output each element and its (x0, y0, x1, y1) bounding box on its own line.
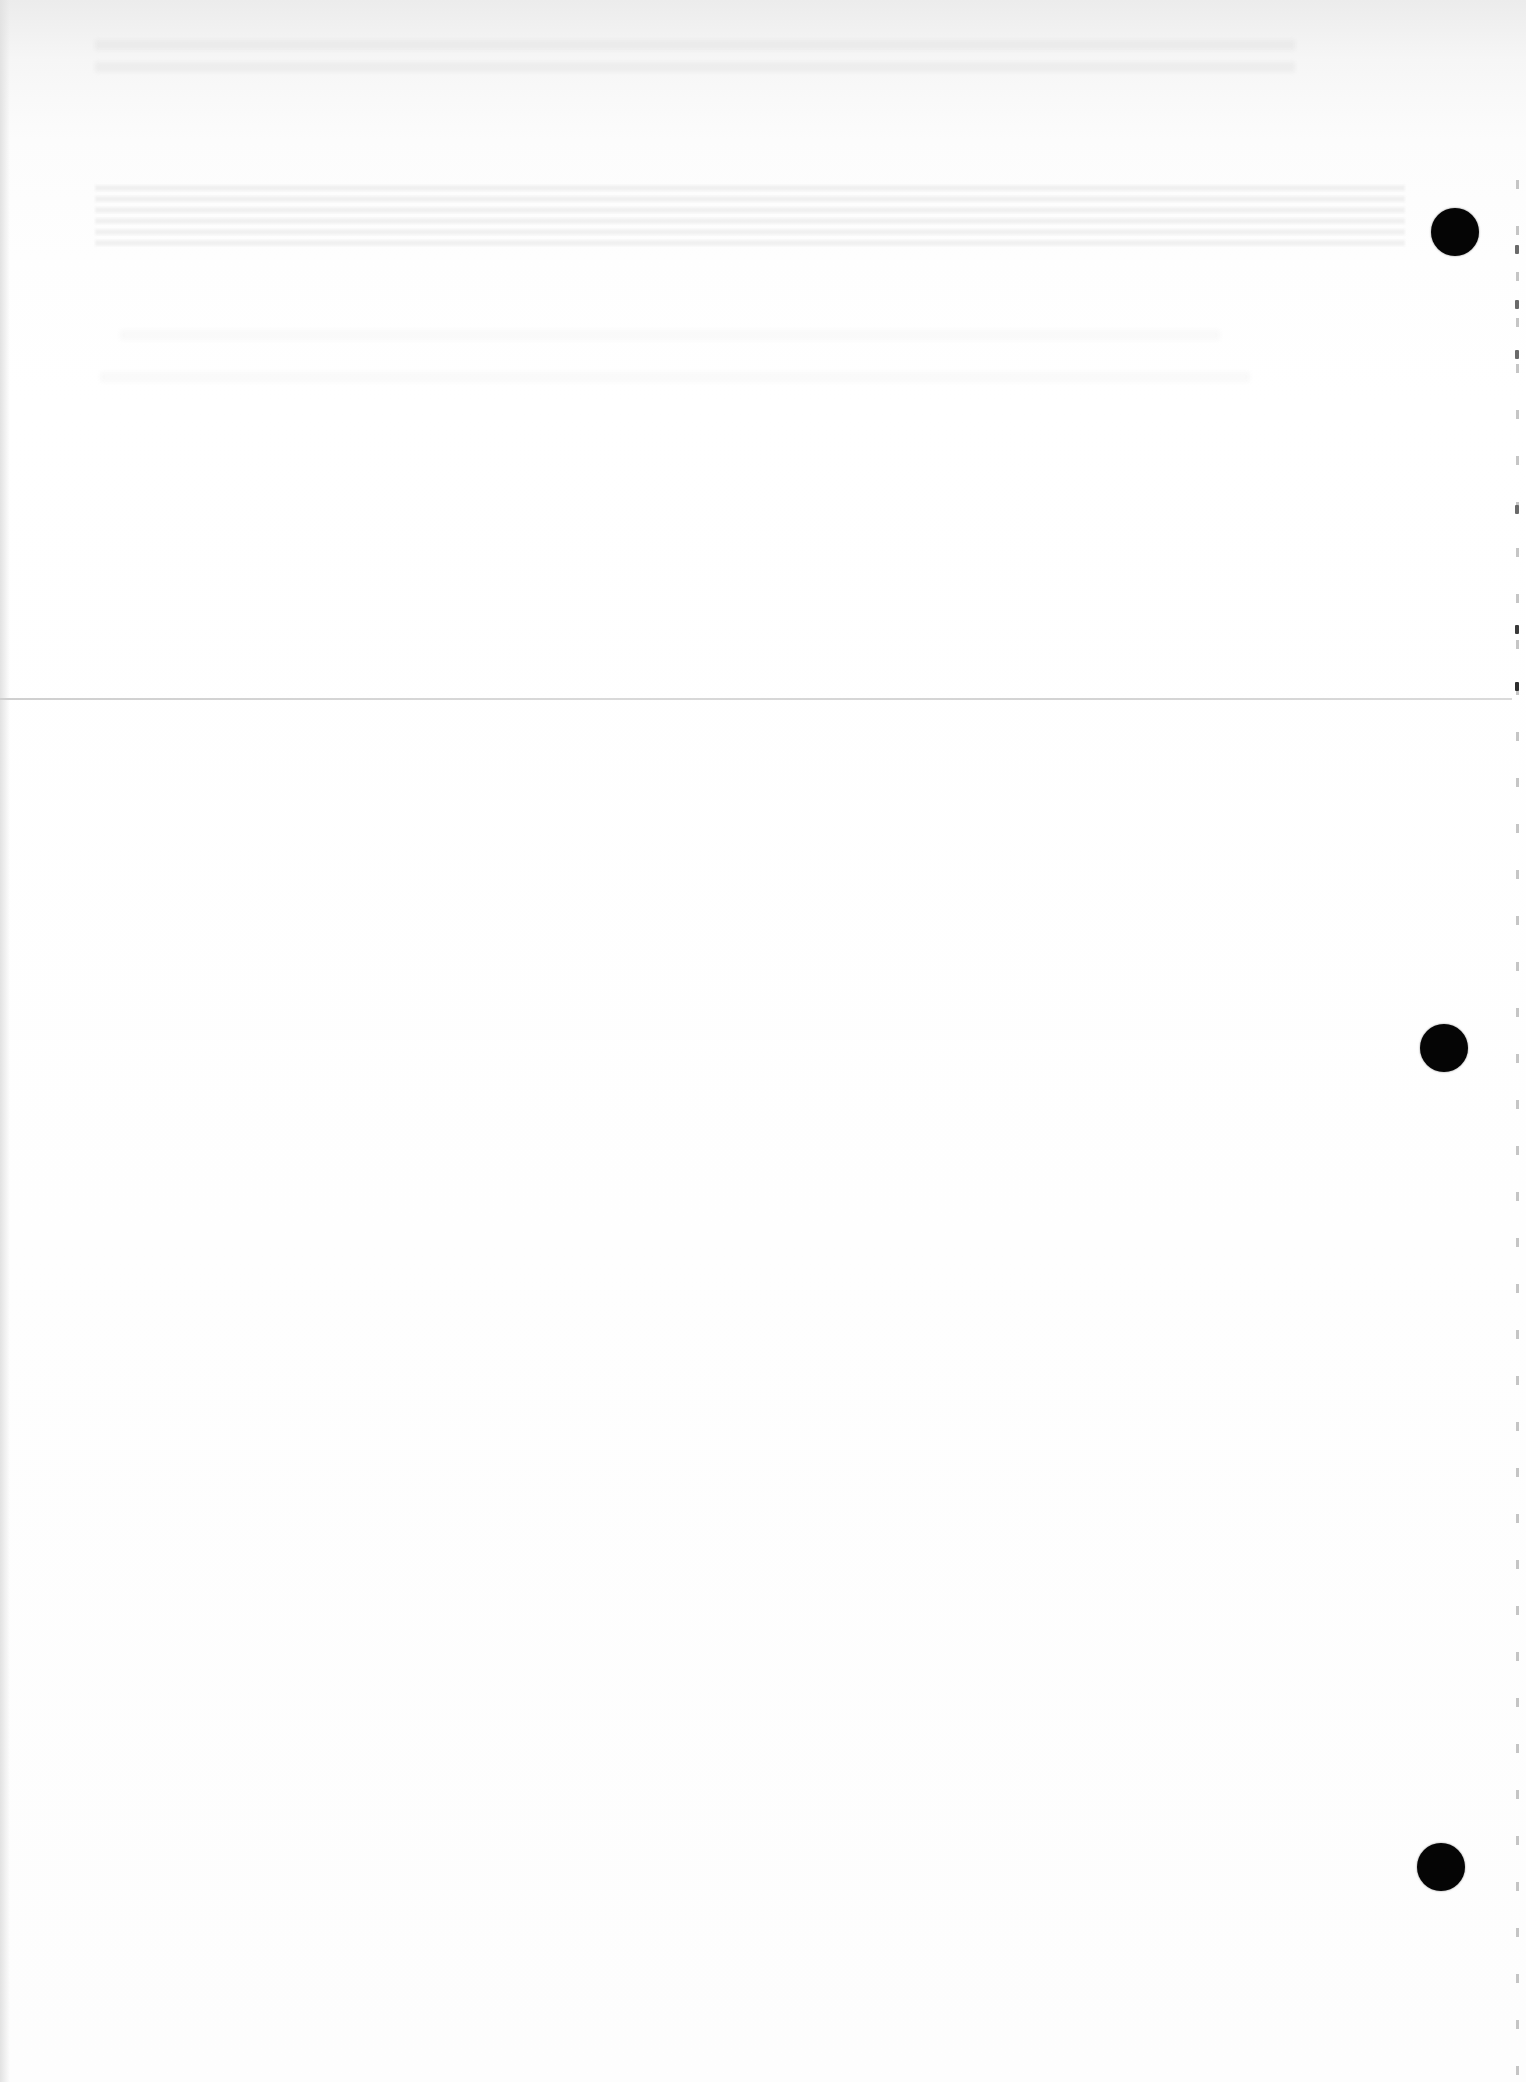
perforated-right-edge (1516, 180, 1519, 2082)
edge-mark (1515, 245, 1519, 254)
punch-hole-top (1431, 208, 1479, 256)
edge-mark (1515, 350, 1519, 359)
bleed-through-line (100, 372, 1250, 382)
bleed-through-line (95, 40, 1295, 50)
punch-hole-bottom (1417, 1843, 1465, 1891)
bleed-through-text-band (95, 185, 1405, 247)
edge-mark (1515, 625, 1519, 634)
bleed-through-line (120, 330, 1220, 340)
scan-left-edge-shadow (0, 0, 10, 2082)
fold-line (0, 698, 1512, 700)
edge-mark (1515, 300, 1519, 309)
punch-hole-middle (1420, 1024, 1468, 1072)
edge-mark (1515, 682, 1519, 691)
scanned-blank-page (0, 0, 1526, 2082)
edge-mark (1515, 505, 1519, 514)
bleed-through-line (95, 62, 1295, 72)
